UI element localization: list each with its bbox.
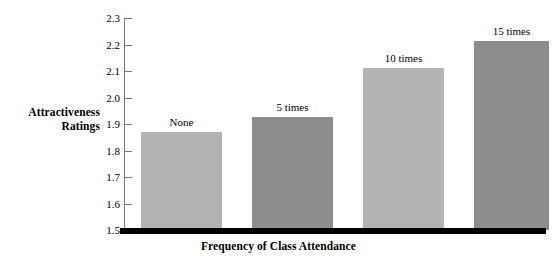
bar-label: 5 times (276, 101, 308, 113)
y-axis-title-line-1: Attractiveness (4, 106, 100, 120)
bar-label: 15 times (493, 25, 531, 37)
y-tick-mark (125, 98, 132, 99)
y-tick-label: 1.5 (106, 224, 120, 236)
y-tick-mark (125, 177, 132, 178)
y-tick-mark (125, 18, 132, 19)
bar-label: None (170, 116, 194, 128)
y-tick-label: 1.6 (106, 198, 120, 210)
y-tick-label: 2.1 (106, 65, 120, 77)
y-tick-label: 1.7 (106, 171, 120, 183)
bar-chart: Attractiveness Ratings 2.32.22.12.01.91.… (0, 0, 557, 267)
y-tick-mark (125, 204, 132, 205)
y-tick-label: 2.0 (106, 92, 120, 104)
y-axis-title: Attractiveness Ratings (4, 106, 100, 133)
x-axis-title: Frequency of Class Attendance (0, 240, 557, 252)
y-axis-title-line-2: Ratings (4, 120, 100, 134)
plot-area: 2.32.22.12.01.91.81.71.61.5 None5 times1… (124, 18, 545, 230)
bar: None (141, 132, 222, 230)
y-tick-label: 1.8 (106, 145, 120, 157)
y-tick-label: 2.2 (106, 39, 120, 51)
y-tick-label: 1.9 (106, 118, 120, 130)
bar: 10 times (363, 68, 444, 230)
x-axis-baseline (120, 228, 546, 234)
y-tick-label: 2.3 (106, 12, 120, 24)
bar: 5 times (252, 117, 333, 230)
bar: 15 times (474, 41, 549, 230)
y-tick-mark (125, 71, 132, 72)
y-tick-mark (125, 124, 132, 125)
bar-label: 10 times (385, 52, 423, 64)
y-tick-mark (125, 151, 132, 152)
y-tick-mark (125, 45, 132, 46)
